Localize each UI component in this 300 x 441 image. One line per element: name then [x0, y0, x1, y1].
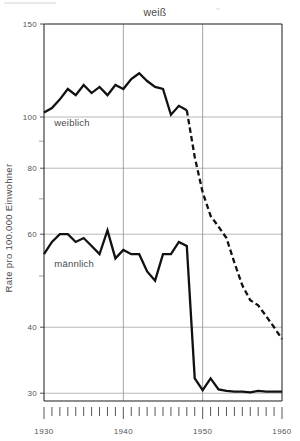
chart-figure: weiß Rate pro 100.000 Einwohner 15010080… [0, 0, 300, 441]
scan-artifact-top-left [4, 2, 56, 4]
y-tick-label: 150 [23, 20, 37, 29]
x-tick-label: 1940 [114, 427, 134, 436]
x-tick-label: 1930 [34, 427, 54, 436]
x-tick-label: 1950 [193, 427, 213, 436]
y-axis-label: Rate pro 100.000 Einwohner [3, 164, 14, 293]
y-tick-label: 80 [28, 164, 38, 173]
y-tick-label: 40 [28, 323, 38, 332]
scan-artifact-top-right [216, 8, 220, 10]
chart-title: weiß [143, 6, 167, 18]
series-annotation-maennlich: männlich [54, 258, 94, 269]
chart-background [0, 0, 300, 441]
x-tick-label: 1960 [272, 427, 292, 436]
y-tick-label: 30 [28, 389, 38, 398]
y-tick-label: 100 [23, 113, 37, 122]
series-annotation-weiblich: weiblich [53, 117, 89, 128]
y-tick-label: 60 [28, 230, 38, 239]
